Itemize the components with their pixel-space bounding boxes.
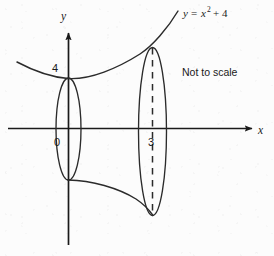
figure-canvas: y x 4 0 3 Not to scale y = x 2 + 4 <box>0 0 274 256</box>
curve-equation-label: y = x 2 + 4 <box>182 5 228 19</box>
not-to-scale-note: Not to scale <box>182 66 238 78</box>
curve-equation-base: x <box>200 7 206 19</box>
x-axis-label: x <box>257 124 264 136</box>
x-tick-label-3: 3 <box>148 136 154 148</box>
curve-equation-constant: + 4 <box>213 7 228 19</box>
y-axis-label: y <box>60 10 67 23</box>
curve-equation-equals: = <box>191 7 197 19</box>
parabola-curve-lower-reflection <box>68 180 153 216</box>
y-intercept-tick-label: 4 <box>52 62 58 74</box>
origin-label: 0 <box>54 136 60 148</box>
parabola-curve-upper <box>17 11 178 79</box>
curve-equation-lhs: y <box>182 7 188 19</box>
coordinate-plane-diagram: y x 4 0 3 Not to scale y = x 2 + 4 <box>0 0 274 256</box>
curve-equation-exponent: 2 <box>207 5 211 14</box>
